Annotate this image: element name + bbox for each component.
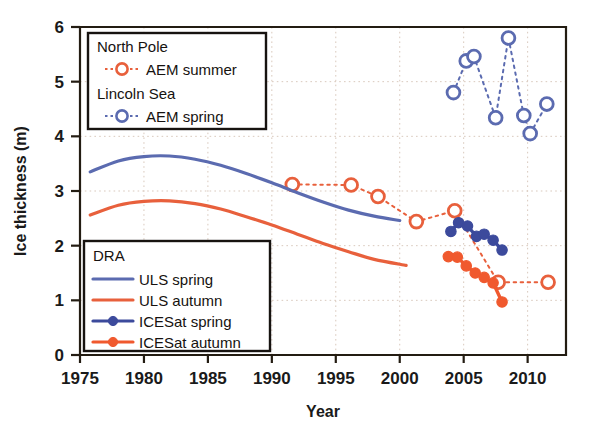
legend-top[interactable]: North PoleAEM summerLincoln SeaAEM sprin… [88, 33, 266, 129]
data-point [497, 297, 507, 307]
legend-group-title-dra: DRA [93, 247, 125, 264]
series-line [292, 184, 548, 282]
y-tick-label: 0 [55, 346, 64, 365]
data-point [345, 179, 358, 192]
data-point [488, 278, 498, 288]
y-tick-label: 1 [55, 291, 64, 310]
legend-item-uls-autumn[interactable]: ULS autumn [139, 292, 222, 309]
data-point [452, 252, 462, 262]
y-tick-label: 2 [55, 237, 64, 256]
series-aem-summer [286, 178, 555, 289]
y-tick-label: 3 [55, 182, 64, 201]
legend-marker [108, 337, 117, 346]
legend-item-aem-spring[interactable]: AEM spring [146, 108, 224, 125]
data-point [447, 86, 460, 99]
x-tick-label: 2010 [509, 369, 547, 388]
ice-thickness-chart: 197519801985199019952000200520100123456Y… [0, 0, 592, 438]
data-point [461, 261, 471, 271]
legend-group-title-lincoln-sea: Lincoln Sea [97, 85, 176, 102]
legend-marker [116, 63, 127, 74]
data-point [524, 127, 537, 140]
series-icesat-autumn [443, 251, 507, 307]
legend-item-icesat-autumn[interactable]: ICESat autumn [139, 334, 241, 351]
data-point [462, 221, 472, 231]
legend-group-title-north-pole: North Pole [97, 38, 168, 55]
y-axis-title: Ice thickness (m) [12, 126, 29, 256]
legend-item-aem-summer[interactable]: AEM summer [146, 61, 237, 78]
y-tick-label: 4 [55, 127, 65, 146]
data-point [540, 98, 553, 111]
data-point [488, 235, 498, 245]
x-axis-title: Year [306, 403, 340, 420]
data-point [448, 204, 461, 217]
x-tick-label: 1980 [125, 369, 163, 388]
series-icesat-spring [446, 218, 508, 256]
data-point [372, 190, 385, 203]
legend-marker [116, 110, 127, 121]
x-tick-label: 1985 [189, 369, 227, 388]
data-point [489, 111, 502, 124]
data-point [542, 276, 555, 289]
data-point [446, 226, 456, 236]
data-point [502, 32, 515, 45]
data-point [517, 109, 530, 122]
x-tick-label: 1995 [317, 369, 355, 388]
data-point [479, 229, 489, 239]
series-aem-spring [447, 32, 553, 140]
legend-item-uls-spring[interactable]: ULS spring [139, 271, 213, 288]
data-point [468, 50, 481, 63]
data-point [497, 245, 507, 255]
chart-canvas: 197519801985199019952000200520100123456Y… [0, 0, 592, 438]
legend-marker [108, 316, 117, 325]
x-tick-label: 2000 [381, 369, 419, 388]
y-tick-label: 5 [55, 73, 64, 92]
legend-bottom[interactable]: DRAULS springULS autumnICESat springICES… [84, 241, 270, 351]
data-point [410, 215, 423, 228]
x-tick-label: 2005 [445, 369, 483, 388]
legend-item-icesat-spring[interactable]: ICESat spring [139, 313, 232, 330]
y-tick-label: 6 [55, 18, 64, 37]
x-tick-label: 1990 [253, 369, 291, 388]
x-tick-label: 1975 [61, 369, 99, 388]
